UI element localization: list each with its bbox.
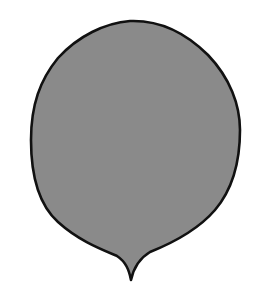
figure-canvas	[0, 0, 253, 290]
leaf-shape	[31, 21, 240, 280]
leaf-shape-svg	[0, 0, 253, 290]
